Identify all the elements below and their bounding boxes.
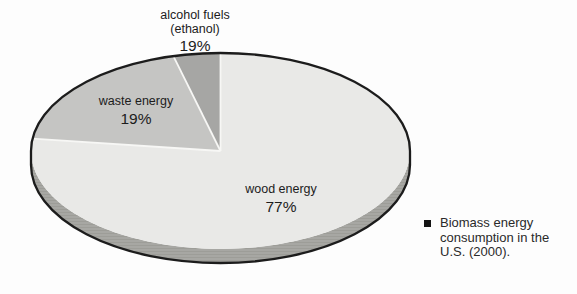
slice-label-wood-energy: wood energy 77% [245,183,317,215]
slice-label-line: alcohol fuels [160,9,230,23]
caption-line: U.S. (2000). [440,245,549,260]
chart-caption: Biomass energy consumption in the U.S. (… [424,216,574,260]
slice-label-line: wood energy [245,183,317,197]
caption-line: consumption in the [440,231,549,246]
figure-biomass-pie-chart: alcohol fuels (ethanol) 19% waste energy… [0,0,577,294]
slice-label-line: (ethanol) [160,23,230,37]
caption-line: Biomass energy [440,216,549,231]
slice-label-waste-energy: waste energy 19% [99,95,173,127]
slice-label-line: waste energy [99,95,173,109]
slice-percent: 19% [160,37,230,54]
slice-percent: 19% [99,110,173,127]
caption-text: Biomass energy consumption in the U.S. (… [440,216,549,260]
slice-label-alcohol-fuels: alcohol fuels (ethanol) 19% [160,9,230,54]
legend-square-icon [424,220,431,227]
slice-percent: 77% [245,198,317,215]
